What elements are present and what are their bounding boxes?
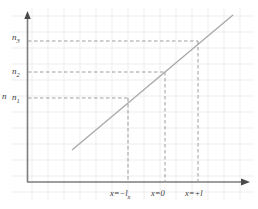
y-tick-label-n1: n1 xyxy=(12,93,20,104)
y-tick-n3-sub: 3 xyxy=(17,37,20,44)
y-axis-variable-label: n xyxy=(2,92,7,101)
x-tick-label-minus-l: x=−lx xyxy=(110,189,131,200)
figure-container: n n3 n2 n1 x=−lx x=0 x=+l xyxy=(0,0,258,209)
chart-canvas xyxy=(0,0,258,209)
x-axis-variable-label: x xyxy=(128,193,131,200)
x-tick-label-plus-l: x=+l xyxy=(185,189,203,198)
y-axis xyxy=(24,11,30,183)
x-tick-label-zero: x=0 xyxy=(151,189,165,198)
y-tick-n2-sub: 2 xyxy=(17,71,20,78)
background-grid xyxy=(12,8,254,200)
x-axis xyxy=(28,179,251,186)
horizontal-guides xyxy=(28,41,198,98)
y-tick-label-n3: n3 xyxy=(12,33,20,44)
y-tick-n1-sub: 1 xyxy=(17,97,20,104)
y-tick-label-n2: n2 xyxy=(12,67,20,78)
x-tick-minus-l-base: x=−l xyxy=(110,188,128,198)
